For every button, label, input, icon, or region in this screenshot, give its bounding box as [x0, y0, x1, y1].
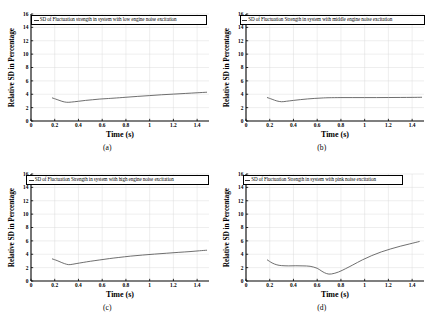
panel-caption-d: (d)	[215, 303, 429, 312]
svg-text:4: 4	[240, 91, 243, 97]
svg-text:14: 14	[23, 24, 29, 30]
svg-text:12: 12	[23, 38, 29, 44]
legend-b: SD of Fluctuation Strength in system wit…	[240, 15, 425, 25]
svg-text:0.4: 0.4	[75, 282, 82, 288]
svg-text:0.6: 0.6	[99, 122, 106, 128]
svg-text:0: 0	[30, 282, 33, 288]
svg-text:0.8: 0.8	[123, 122, 130, 128]
svg-text:0.6: 0.6	[99, 282, 106, 288]
legend-label-c: SD of Fluctuation Strength in system wit…	[35, 177, 174, 182]
svg-text:6: 6	[26, 238, 29, 244]
svg-text:0.2: 0.2	[266, 122, 273, 128]
legend-line-marker-icon	[34, 20, 39, 21]
chart-panel-a: Relative SD in Percentage 02468101214160…	[0, 0, 215, 160]
svg-text:Time (s): Time (s)	[320, 290, 348, 299]
svg-text:6: 6	[240, 78, 243, 84]
svg-text:2: 2	[26, 105, 29, 111]
svg-text:1: 1	[363, 282, 366, 288]
svg-text:0.8: 0.8	[337, 282, 344, 288]
svg-text:16: 16	[23, 11, 29, 17]
legend-line-marker-icon	[29, 180, 34, 181]
svg-text:14: 14	[238, 24, 244, 30]
svg-text:2: 2	[26, 265, 29, 271]
svg-text:2: 2	[240, 105, 243, 111]
panel-caption-a: (a)	[0, 143, 215, 152]
svg-text:8: 8	[240, 64, 243, 70]
svg-text:0: 0	[26, 278, 29, 284]
panel-caption-b: (b)	[215, 143, 429, 152]
svg-text:4: 4	[26, 91, 29, 97]
svg-text:0.4: 0.4	[290, 282, 297, 288]
svg-text:Time (s): Time (s)	[320, 130, 348, 139]
svg-text:1.4: 1.4	[408, 122, 415, 128]
legend-d: SD of Fluctuation Strength in system wit…	[243, 175, 403, 185]
svg-text:10: 10	[23, 51, 29, 57]
svg-text:1.2: 1.2	[170, 122, 177, 128]
svg-text:1.4: 1.4	[194, 282, 201, 288]
figure-four-panel-chart-grid: Relative SD in Percentage 02468101214160…	[0, 0, 429, 320]
svg-text:0.4: 0.4	[290, 122, 297, 128]
chart-panel-c: Relative SD in Percentage 02468101214160…	[0, 160, 215, 320]
svg-text:14: 14	[23, 184, 29, 190]
svg-text:0.8: 0.8	[123, 282, 130, 288]
svg-text:10: 10	[23, 211, 29, 217]
svg-text:1.2: 1.2	[385, 282, 392, 288]
legend-c: SD of Fluctuation Strength in system wit…	[26, 175, 209, 185]
svg-text:8: 8	[26, 224, 29, 230]
svg-text:1.2: 1.2	[385, 122, 392, 128]
svg-text:Time (s): Time (s)	[106, 290, 134, 299]
svg-text:4: 4	[26, 251, 29, 257]
svg-text:0: 0	[30, 122, 33, 128]
svg-text:1.4: 1.4	[408, 282, 415, 288]
svg-text:8: 8	[240, 224, 243, 230]
svg-text:14: 14	[238, 184, 244, 190]
svg-text:0.4: 0.4	[75, 122, 82, 128]
legend-label-d: SD of Fluctuation Strength in system wit…	[251, 177, 376, 182]
svg-text:10: 10	[238, 51, 244, 57]
legend-label-b: SD of Fluctuation Strength in system wit…	[248, 17, 392, 22]
svg-text:0: 0	[244, 282, 247, 288]
svg-text:1: 1	[363, 122, 366, 128]
svg-text:0: 0	[26, 118, 29, 124]
svg-text:0: 0	[240, 118, 243, 124]
svg-text:1.4: 1.4	[194, 122, 201, 128]
legend-label-a: SD of Fluctuation strength in system wit…	[40, 17, 177, 22]
svg-text:6: 6	[240, 238, 243, 244]
svg-text:4: 4	[240, 251, 243, 257]
legend-line-marker-icon	[242, 20, 247, 21]
svg-text:12: 12	[238, 198, 244, 204]
svg-text:6: 6	[26, 78, 29, 84]
chart-panel-d: Relative SD in Percentage 02468101214160…	[215, 160, 429, 320]
svg-text:1: 1	[148, 282, 151, 288]
svg-text:0.8: 0.8	[337, 122, 344, 128]
svg-text:0: 0	[240, 278, 243, 284]
panel-caption-c: (c)	[0, 303, 215, 312]
svg-text:12: 12	[238, 38, 244, 44]
svg-text:2: 2	[240, 265, 243, 271]
legend-a: SD of Fluctuation strength in system wit…	[31, 15, 207, 25]
svg-text:1: 1	[148, 122, 151, 128]
svg-text:0.6: 0.6	[313, 122, 320, 128]
svg-text:8: 8	[26, 64, 29, 70]
svg-text:0.2: 0.2	[51, 122, 58, 128]
svg-text:0.6: 0.6	[313, 282, 320, 288]
svg-text:12: 12	[23, 198, 29, 204]
svg-text:0.2: 0.2	[266, 282, 273, 288]
chart-panel-b: Relative SD in Percentage 02468101214160…	[215, 0, 429, 160]
legend-line-marker-icon	[245, 180, 250, 181]
svg-text:1.2: 1.2	[170, 282, 177, 288]
svg-text:Time (s): Time (s)	[106, 130, 134, 139]
svg-text:0.2: 0.2	[51, 282, 58, 288]
svg-text:10: 10	[238, 211, 244, 217]
svg-text:0: 0	[244, 122, 247, 128]
